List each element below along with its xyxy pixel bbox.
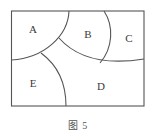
region-label-a: A [29, 24, 37, 35]
region-label-c: C [125, 33, 132, 44]
figure-caption: 图 5 [68, 117, 89, 132]
region-label-e: E [30, 78, 37, 89]
region-label-d: D [97, 81, 105, 92]
boundary-arc-e-d [41, 53, 66, 106]
boundary-arc-a [12, 11, 70, 60]
map-coloring-diagram: A B C D E 图 5 [0, 0, 150, 138]
region-label-b: B [84, 29, 91, 40]
boundary-arc-b-c [100, 11, 111, 63]
